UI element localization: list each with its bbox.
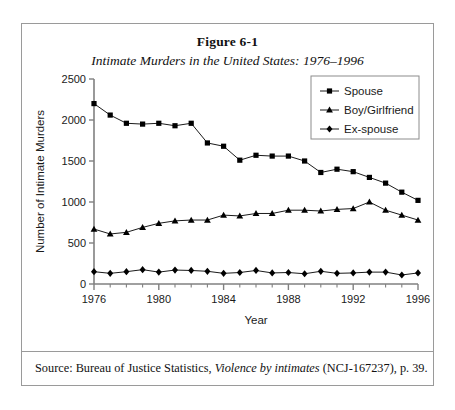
data-point-marker (220, 212, 227, 218)
data-point-marker (140, 266, 146, 273)
data-point-marker (366, 199, 373, 205)
data-point-marker (286, 153, 291, 158)
data-point-marker (270, 153, 275, 158)
series-ex-spouse (91, 266, 421, 279)
data-point-marker (156, 269, 162, 276)
data-point-marker (91, 101, 96, 106)
data-point-marker (237, 269, 243, 276)
data-point-marker (383, 181, 388, 186)
y-tick-label: 1500 (62, 155, 86, 167)
data-point-marker (318, 170, 323, 175)
data-point-marker (221, 144, 226, 149)
data-point-marker (156, 121, 161, 126)
data-point-marker (91, 226, 98, 232)
y-tick-label: 500 (68, 237, 86, 249)
y-tick-label: 0 (80, 278, 86, 290)
data-point-marker (399, 271, 405, 278)
data-point-marker (269, 269, 275, 276)
figure-container: Figure 6-1 Intimate Murders in the Unite… (21, 23, 434, 386)
data-point-marker (172, 266, 178, 273)
x-tick-label: 1984 (211, 293, 235, 305)
legend-item-label: Boy/Girlfriend (344, 104, 414, 116)
y-tick-label: 2500 (62, 73, 86, 85)
data-point-marker (351, 169, 356, 174)
source-prefix: Source: Bureau of Justice Statistics, (35, 361, 212, 375)
x-tick-label: 1988 (276, 293, 300, 305)
data-point-marker (302, 270, 308, 277)
y-axis-title: Number of Intimate Murders (34, 110, 46, 253)
data-point-marker (123, 268, 129, 275)
x-axis-title: Year (244, 314, 267, 326)
data-point-marker (188, 267, 194, 274)
figure-number: Figure 6-1 (22, 34, 433, 50)
figure-subtitle: Intimate Murders in the United States: 1… (22, 53, 433, 69)
data-point-marker (327, 88, 332, 93)
data-point-marker (415, 198, 420, 203)
data-point-marker (350, 269, 356, 276)
data-point-marker (107, 270, 113, 277)
data-point-marker (108, 112, 113, 117)
y-tick-label: 2000 (62, 114, 86, 126)
figure-title-block: Figure 6-1 Intimate Murders in the Unite… (22, 34, 433, 69)
chart-legend: SpouseBoy/GirlfriendEx-spouse (311, 76, 419, 139)
data-point-marker (399, 190, 404, 195)
data-point-marker (205, 140, 210, 145)
source-divider (22, 351, 433, 352)
legend-item-label: Spouse (344, 85, 383, 97)
data-point-marker (382, 207, 389, 213)
source-suffix: (NCJ-167237), p. 39. (323, 361, 428, 375)
data-point-marker (383, 269, 389, 276)
data-point-marker (334, 270, 340, 277)
data-point-marker (221, 270, 227, 277)
data-point-marker (237, 158, 242, 163)
source-note: Source: Bureau of Justice Statistics, Vi… (35, 361, 428, 376)
data-point-marker (318, 268, 324, 275)
data-point-marker (140, 122, 145, 127)
data-point-marker (350, 205, 357, 211)
source-publication-title: Violence by intimates (215, 361, 320, 375)
x-tick-label: 1992 (341, 293, 365, 305)
data-point-marker (124, 121, 129, 126)
data-point-marker (302, 158, 307, 163)
data-point-marker (253, 153, 258, 158)
x-tick-label: 1980 (147, 293, 171, 305)
data-point-marker (334, 167, 339, 172)
data-point-marker (189, 121, 194, 126)
x-tick-label: 1976 (82, 293, 106, 305)
data-point-marker (253, 267, 259, 274)
chart-plot-area: 0500100015002000250019761980198419881992… (22, 70, 433, 340)
data-point-marker (366, 269, 372, 276)
x-tick-label: 1996 (406, 293, 430, 305)
data-point-marker (204, 268, 210, 275)
data-point-marker (172, 123, 177, 128)
y-tick-label: 1000 (62, 196, 86, 208)
data-point-marker (415, 269, 421, 276)
data-point-marker (91, 268, 97, 275)
line-chart: 0500100015002000250019761980198419881992… (22, 70, 433, 340)
legend-item-label: Ex-spouse (344, 123, 398, 135)
data-point-marker (367, 175, 372, 180)
data-point-marker (285, 269, 291, 276)
series-boy-girlfriend (91, 199, 422, 237)
